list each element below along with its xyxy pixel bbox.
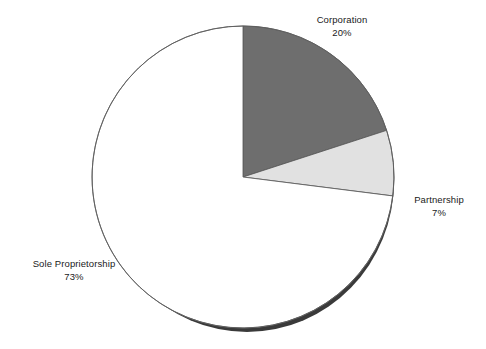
pie-chart-graphic [0,0,486,349]
pie-label-partnership-value: 7% [398,207,480,220]
pie-label-sole-proprietorship-name: Sole Proprietorship [8,258,140,271]
pie-label-sole-proprietorship: Sole Proprietorship 73% [8,258,140,283]
pie-label-partnership-name: Partnership [398,194,480,207]
pie-label-partnership: Partnership 7% [398,194,480,219]
pie-label-corporation: Corporation 20% [297,14,387,39]
pie-label-sole-proprietorship-value: 73% [8,271,140,284]
pie-chart-figure: Corporation 20% Partnership 7% Sole Prop… [0,0,486,349]
pie-label-corporation-name: Corporation [297,14,387,27]
pie-label-corporation-value: 20% [297,27,387,40]
